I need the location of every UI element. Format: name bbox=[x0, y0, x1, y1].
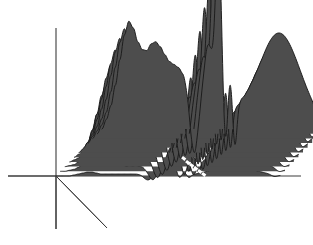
waterfall-plot-canvas bbox=[0, 0, 313, 245]
waterfall-plot-figure bbox=[0, 0, 313, 245]
